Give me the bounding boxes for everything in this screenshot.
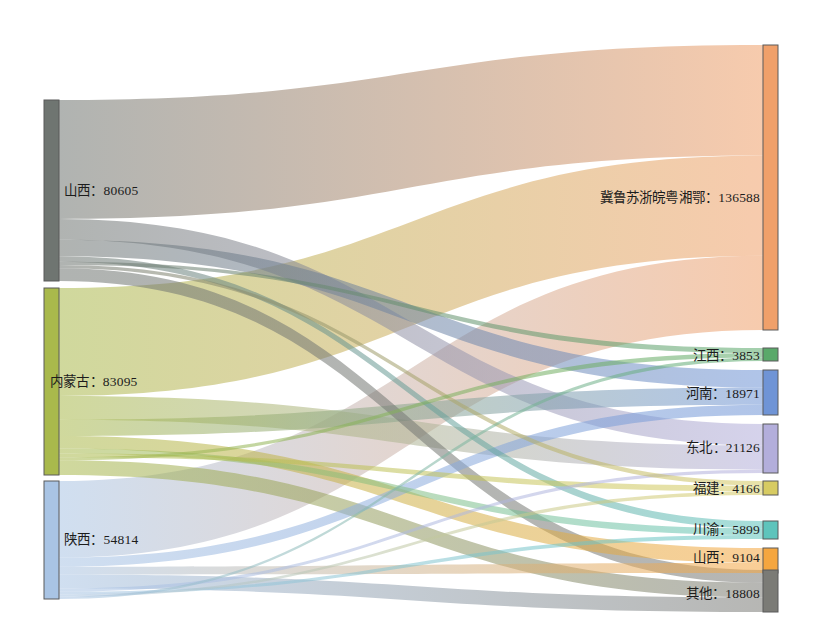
sankey-node-dongbei[interactable] <box>763 424 778 473</box>
sankey-node-chuanyu[interactable] <box>763 521 778 539</box>
sankey-chart: 山西：80605 内蒙古：83095 陕西：54814 冀鲁苏浙皖粤湘鄂：136… <box>0 0 818 643</box>
sankey-links-layer <box>59 45 763 612</box>
sankey-node-jlszwyxe[interactable] <box>763 45 778 330</box>
sankey-node-shanxi_src[interactable] <box>44 100 59 281</box>
sankey-node-jiangxi[interactable] <box>763 348 778 361</box>
sankey-node-shaanxi[interactable] <box>44 481 59 599</box>
sankey-canvas <box>0 0 818 643</box>
sankey-node-qita[interactable] <box>763 570 778 612</box>
sankey-node-henan[interactable] <box>763 370 778 415</box>
sankey-node-neimenggu[interactable] <box>44 288 59 475</box>
sankey-node-fujian[interactable] <box>763 481 778 495</box>
sankey-node-shanxi_dst[interactable] <box>763 548 778 573</box>
